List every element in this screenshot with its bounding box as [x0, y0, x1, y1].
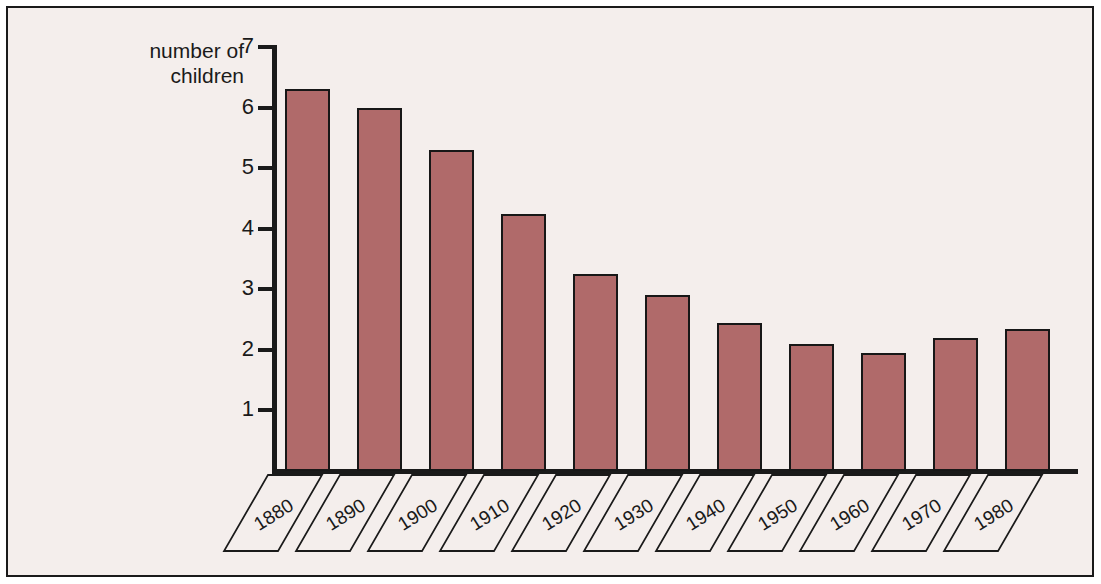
- y-axis-tick-label: 4: [220, 217, 254, 239]
- bar: [285, 89, 330, 471]
- bar: [645, 295, 690, 471]
- y-axis-tick-label: 6: [220, 96, 254, 118]
- bar: [717, 323, 762, 471]
- bar: [789, 344, 834, 471]
- bar: [501, 214, 546, 471]
- plot-area: [272, 47, 1082, 471]
- bar: [573, 274, 618, 471]
- x-axis-year-tabs: 1880189019001910192019301940195019601970…: [8, 474, 1096, 574]
- chart-figure: number of children 7654321 1880189019001…: [6, 6, 1094, 577]
- y-axis-tick-label: 1: [220, 398, 254, 420]
- y-axis-tick-label: 2: [220, 338, 254, 360]
- bar: [429, 150, 474, 471]
- y-axis-tick-label: 3: [220, 277, 254, 299]
- y-axis-tick-label: 5: [220, 156, 254, 178]
- bar: [1005, 329, 1050, 471]
- bar: [357, 108, 402, 471]
- y-axis-tick-label: 7: [220, 35, 254, 57]
- bar: [933, 338, 978, 471]
- bar: [861, 353, 906, 471]
